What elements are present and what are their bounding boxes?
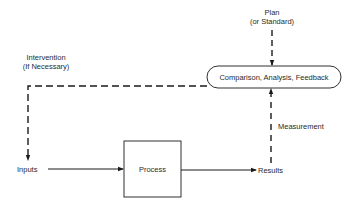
control-loop-diagram: Plan (or Standard) Comparison, Analysis,…: [0, 0, 345, 206]
measurement-label: Measurement: [278, 122, 325, 131]
plan-label-line1: Plan: [264, 8, 279, 17]
plan-label-line2: (or Standard): [250, 17, 295, 26]
process-label: Process: [139, 165, 166, 174]
intervention-label-line1: Intervention: [26, 53, 65, 62]
inputs-label: Inputs: [17, 165, 38, 174]
results-label: Results: [258, 166, 283, 175]
intervention-label-line2: (If Necessary): [23, 62, 70, 71]
comparison-label: Comparison, Analysis, Feedback: [219, 73, 328, 82]
